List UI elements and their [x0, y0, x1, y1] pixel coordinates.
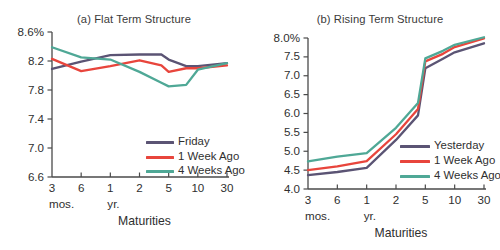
legend-label: 1 Week Ago — [434, 154, 495, 166]
legend-label: 4 Weeks Ago — [434, 169, 500, 181]
y-tick-label: 8.6% — [18, 25, 44, 38]
x-tick-label: 10 — [186, 181, 210, 194]
y-tick-label: 8.0% — [274, 31, 300, 44]
x-axis-title: Maturities — [298, 226, 500, 240]
x-tick-label: 3 — [40, 181, 64, 194]
legend-color-swatch — [146, 141, 174, 144]
x-tick-label: 5 — [157, 181, 181, 194]
x-tick-label: 1 — [98, 181, 122, 194]
legend-label: Yesterday — [434, 139, 484, 151]
x-tick-label: 6 — [69, 181, 93, 194]
x-tick-label: 3 — [296, 193, 320, 206]
legend-color-swatch — [146, 170, 174, 173]
y-tick-label: 5.5 — [284, 125, 300, 138]
panel-a-plot-area — [0, 0, 250, 250]
y-tick-label: 7.0 — [28, 141, 44, 154]
chart-panel-flat-term-structure: (a) Flat Term Structure 8.6%8.27.87.47.0… — [0, 0, 250, 250]
x-axis-title: Maturities — [42, 214, 247, 228]
x-tick-label: 2 — [384, 193, 408, 206]
x-tick-label: 5 — [413, 193, 437, 206]
x-tick-label: 30 — [472, 193, 496, 206]
x-tick-label: 6 — [325, 193, 349, 206]
y-tick-label: 6.5 — [284, 87, 300, 100]
x-axis-unit-label: yr. — [364, 209, 376, 222]
x-tick-label: 1 — [355, 193, 379, 206]
legend-color-swatch — [400, 175, 430, 178]
y-tick-label: 7.4 — [28, 112, 44, 125]
x-tick-label: 10 — [443, 193, 467, 206]
y-tick-label: 7.0 — [284, 68, 300, 81]
legend-label: 1 Week Ago — [178, 150, 239, 162]
term-structure-figure: (a) Flat Term Structure 8.6%8.27.87.47.0… — [0, 0, 500, 250]
y-tick-label: 6.0 — [284, 106, 300, 119]
legend-label: Friday — [178, 135, 210, 147]
x-axis-unit-label: mos. — [49, 197, 74, 210]
legend-label: 4 Weeks Ago — [178, 164, 245, 176]
y-tick-label: 5.0 — [284, 144, 300, 157]
x-axis-unit-label: yr. — [107, 197, 119, 210]
y-tick-label: 7.5 — [284, 49, 300, 62]
legend-color-swatch — [400, 160, 430, 163]
x-tick-label: 2 — [128, 181, 152, 194]
chart-panel-rising-term-structure: (b) Rising Term Structure 8.0%7.57.06.56… — [250, 0, 500, 250]
y-tick-label: 4.5 — [284, 163, 300, 176]
x-tick-label: 30 — [215, 181, 239, 194]
y-tick-label: 7.8 — [28, 83, 44, 96]
x-axis-unit-label: mos. — [305, 209, 330, 222]
y-tick-label: 8.2 — [28, 54, 44, 67]
legend-color-swatch — [400, 145, 430, 148]
legend-color-swatch — [146, 156, 174, 159]
